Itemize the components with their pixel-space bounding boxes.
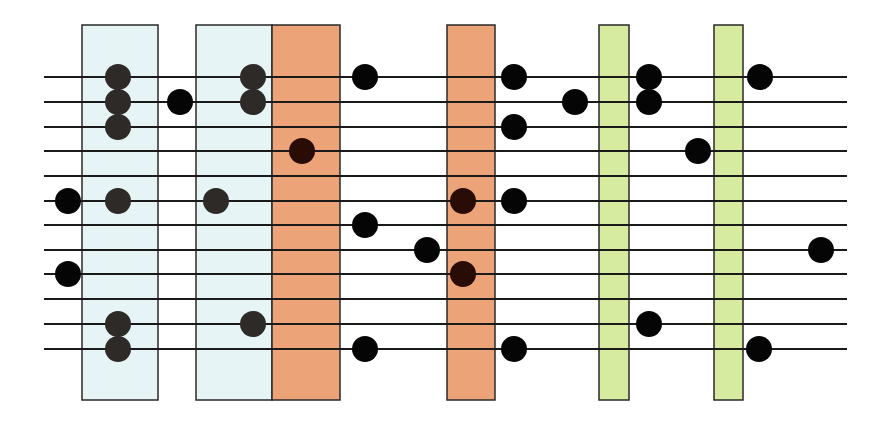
note-dot [105,311,131,337]
note-dot [105,336,131,362]
note-dot [352,64,378,90]
note-dot [105,89,131,115]
highlight-box-orange-2 [447,25,495,400]
note-dot [352,336,378,362]
note-dot [501,188,527,214]
note-dot [636,64,662,90]
note-dot [636,311,662,337]
note-dot [414,237,440,263]
note-dot [55,188,81,214]
note-dot [636,89,662,115]
note-dot [501,114,527,140]
note-dot [501,336,527,362]
note-dot [105,188,131,214]
note-dot [746,336,772,362]
note-dot [55,261,81,287]
note-dot [352,212,378,238]
note-dot [808,237,834,263]
diagram-canvas [0,0,884,424]
note-dot [747,64,773,90]
note-dot [203,188,229,214]
fretboard-diagram [0,0,884,424]
highlight-box-green-1 [599,25,629,400]
note-dot [240,89,266,115]
note-dot [240,64,266,90]
note-dot [685,138,711,164]
note-dot [105,114,131,140]
note-dot [450,188,476,214]
note-dot [450,261,476,287]
note-dot [240,311,266,337]
note-dot [562,89,588,115]
highlight-box-green-2 [714,25,743,400]
note-dot [167,89,193,115]
note-dot [289,138,315,164]
note-dot [501,64,527,90]
highlight-box-orange-1 [272,25,340,400]
note-dot [105,64,131,90]
